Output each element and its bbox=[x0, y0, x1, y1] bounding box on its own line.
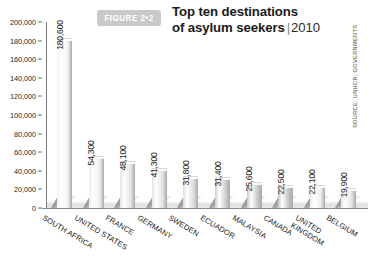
bar-column: 41,300 bbox=[152, 170, 167, 208]
bar-value-label: 31,400 bbox=[213, 161, 223, 186]
bar-value-label: 25,600 bbox=[244, 167, 254, 192]
bar-item: 19,900 bbox=[335, 186, 359, 209]
bar-item: 31,800 bbox=[177, 174, 201, 208]
bar-item: 54,300 bbox=[83, 154, 107, 208]
bar-item: 22,100 bbox=[304, 183, 328, 208]
bar-item: 180,600 bbox=[51, 36, 75, 208]
bar-value-label: 41,300 bbox=[149, 152, 159, 177]
bar-column: 31,400 bbox=[215, 179, 230, 208]
bar-item: 22,500 bbox=[272, 183, 296, 208]
bar-item: 31,400 bbox=[209, 175, 233, 208]
x-axis-category-label: ECUADOR bbox=[199, 214, 237, 241]
figure-container: FIGURE 2•2 Top ten destinations of asylu… bbox=[0, 0, 372, 274]
x-axis-category-label: MALAYSIA bbox=[230, 214, 267, 241]
bar-column: 48,100 bbox=[120, 163, 135, 208]
bar-value-label: 180,600 bbox=[55, 20, 65, 50]
bar-column: 22,100 bbox=[310, 187, 325, 208]
bar-item: 25,600 bbox=[241, 180, 265, 208]
bar-value-label: 54,300 bbox=[86, 140, 96, 165]
x-axis-categories: SOUTH AFRICAUNITED STATESFRANCEGERMANYSW… bbox=[0, 208, 372, 274]
bar-face bbox=[57, 40, 72, 208]
bar-value-label: 19,900 bbox=[339, 172, 349, 197]
bar-item: 48,100 bbox=[114, 159, 138, 208]
bar-value-label: 48,100 bbox=[118, 146, 128, 171]
bar-column: 180,600 bbox=[57, 40, 72, 208]
bar-column: 25,600 bbox=[247, 184, 262, 208]
bar-item: 41,300 bbox=[146, 166, 170, 208]
bar-column: 22,500 bbox=[278, 187, 293, 208]
bar-value-label: 31,800 bbox=[181, 161, 191, 186]
chart-plot-area: 200,000180,000160,000140,000120,000100,0… bbox=[0, 0, 372, 274]
bar-column: 54,300 bbox=[89, 158, 104, 208]
source-credit: SOURCE: UNHCR; GOVERNMENTS bbox=[352, 25, 358, 128]
bar-column: 31,800 bbox=[183, 178, 198, 208]
bar-column: 19,900 bbox=[341, 190, 356, 209]
bar-value-label: 22,500 bbox=[276, 170, 286, 195]
bar-value-label: 22,100 bbox=[307, 170, 317, 195]
